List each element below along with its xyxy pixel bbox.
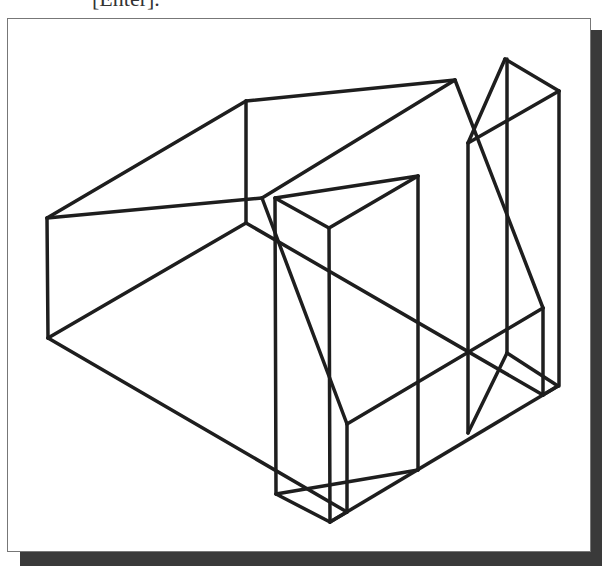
wireframe-edge [48, 338, 347, 512]
wireframe-drawing [0, 0, 602, 566]
wireframe-edge [468, 91, 559, 143]
wireframe-edge [468, 59, 505, 143]
wireframe-edge [347, 308, 543, 424]
wireframe-edge [275, 198, 329, 228]
wireframe-edge [507, 353, 558, 386]
wireframe-edge [330, 386, 558, 522]
wireframe-edge [47, 101, 246, 218]
wireframe-edge [543, 386, 558, 395]
wireframe-edge [505, 59, 559, 91]
wireframe-edge [48, 223, 246, 338]
wireframe-edge [275, 198, 276, 494]
wireframe-edge [47, 218, 48, 338]
wireframe-edge [329, 228, 330, 522]
